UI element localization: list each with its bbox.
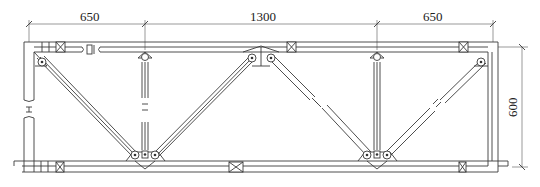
bolt-box-icon	[287, 42, 296, 52]
gusset-top-left	[34, 52, 47, 66]
left-post	[24, 42, 34, 172]
dim-label-650-right: 650	[423, 9, 443, 24]
diagonal-1	[37, 56, 138, 157]
horizontal-dimension: 650 1300 650	[26, 9, 496, 50]
vertical-left	[138, 52, 152, 150]
truss-drawing: 650 1300 650 600	[0, 0, 540, 187]
bolt-box-icon	[56, 162, 64, 172]
bolt-box-icon	[229, 162, 243, 172]
vertical-right	[370, 52, 384, 150]
diagonal-2	[152, 58, 253, 158]
bolt-box-icon	[459, 42, 468, 52]
dim-label-600: 600	[505, 98, 520, 118]
right-post	[488, 42, 498, 172]
bolt-box-icon	[459, 162, 466, 172]
dim-label-1300: 1300	[250, 9, 276, 24]
bottom-chord	[14, 161, 508, 172]
dim-label-650-left: 650	[80, 9, 100, 24]
vertical-dimension: 600	[498, 44, 528, 170]
diagonal-3	[270, 57, 371, 155]
bolt-box-icon	[56, 42, 65, 52]
diagonal-4	[383, 60, 486, 158]
